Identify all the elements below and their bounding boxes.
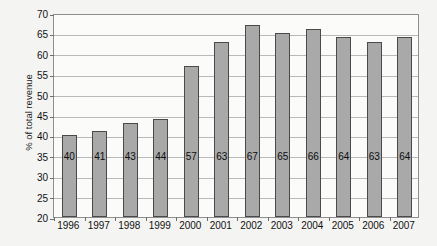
gridline — [54, 55, 418, 56]
x-tick-label: 2005 — [332, 221, 354, 231]
gridline — [54, 178, 418, 179]
x-tick-label: 2000 — [179, 221, 201, 231]
y-axis-title: % of total revenue — [23, 38, 34, 188]
bar-value-label: 63 — [369, 152, 380, 162]
y-tick-label: 35 — [37, 153, 48, 163]
bar-value-label: 40 — [64, 152, 75, 162]
y-tick-label: 25 — [37, 194, 48, 204]
bar-value-label: 64 — [399, 152, 410, 162]
x-tick-label: 1996 — [57, 221, 79, 231]
y-tick-label: 30 — [37, 173, 48, 183]
x-tick-label: 2003 — [271, 221, 293, 231]
bar: 67 — [245, 25, 260, 217]
bar-value-label: 67 — [247, 152, 258, 162]
bar-value-label: 43 — [125, 152, 136, 162]
x-tick-label: 1998 — [118, 221, 140, 231]
bar: 65 — [275, 33, 290, 217]
y-tick-mark — [50, 198, 54, 199]
bar: 63 — [367, 42, 382, 217]
x-tick-label: 2002 — [240, 221, 262, 231]
bar-value-label: 57 — [186, 152, 197, 162]
bar: 43 — [123, 123, 138, 217]
gridline — [54, 198, 418, 199]
y-tick-label: 55 — [37, 71, 48, 81]
gridline — [54, 76, 418, 77]
bar: 64 — [336, 37, 351, 217]
y-tick-label: 20 — [37, 214, 48, 224]
bar-value-label: 66 — [308, 152, 319, 162]
plot-area: 7065605550454035302520404143445763676566… — [53, 14, 419, 218]
x-tick-label: 2004 — [301, 221, 323, 231]
y-tick-mark — [50, 137, 54, 138]
bar-value-label: 44 — [155, 152, 166, 162]
y-tick-mark — [50, 55, 54, 56]
gridline — [54, 35, 418, 36]
bar-chart: % of total revenue 706560555045403530252… — [0, 0, 437, 246]
y-tick-label: 45 — [37, 112, 48, 122]
bar: 66 — [306, 29, 321, 217]
bar: 57 — [184, 66, 199, 217]
gridline — [54, 137, 418, 138]
bar: 63 — [214, 42, 229, 217]
bar: 40 — [62, 135, 77, 217]
x-tick-label: 2001 — [210, 221, 232, 231]
gridline — [54, 157, 418, 158]
x-tick-label: 2006 — [362, 221, 384, 231]
bar-value-label: 41 — [94, 152, 105, 162]
bar: 44 — [153, 119, 168, 217]
y-tick-mark — [50, 178, 54, 179]
bar: 41 — [92, 131, 107, 217]
y-tick-mark — [50, 117, 54, 118]
y-tick-label: 60 — [37, 51, 48, 61]
x-axis-label-row: 1996199719981999200020012002200320042005… — [53, 221, 419, 237]
bar-value-label: 64 — [338, 152, 349, 162]
y-tick-mark — [50, 35, 54, 36]
x-tick-label: 1997 — [88, 221, 110, 231]
gridline — [54, 96, 418, 97]
y-tick-label: 70 — [37, 10, 48, 20]
gridline — [54, 117, 418, 118]
bar-value-label: 63 — [216, 152, 227, 162]
y-tick-mark — [50, 157, 54, 158]
bar-value-label: 65 — [277, 152, 288, 162]
x-tick-label: 2007 — [393, 221, 415, 231]
y-tick-mark — [50, 76, 54, 77]
y-tick-label: 50 — [37, 92, 48, 102]
x-tick-label: 1999 — [149, 221, 171, 231]
y-tick-mark — [50, 15, 54, 16]
y-tick-label: 40 — [37, 132, 48, 142]
y-tick-mark — [50, 96, 54, 97]
y-tick-label: 65 — [37, 30, 48, 40]
bar: 64 — [397, 37, 412, 217]
